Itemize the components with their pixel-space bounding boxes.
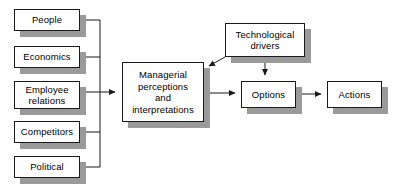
node-competitors[interactable]: Competitors: [14, 121, 80, 143]
node-employee-relations[interactable]: Employee relations: [14, 81, 80, 109]
node-managerial-perceptions[interactable]: Managerial perceptions and interpretatio…: [122, 62, 204, 122]
edge-technological-to-managerial: [209, 57, 225, 66]
node-political[interactable]: Political: [14, 156, 80, 178]
flow-diagram: People Economics Employee relations Comp…: [0, 0, 399, 195]
node-options[interactable]: Options: [241, 81, 296, 108]
node-technological-drivers[interactable]: Technological drivers: [225, 23, 305, 57]
node-actions[interactable]: Actions: [327, 81, 382, 108]
node-economics[interactable]: Economics: [14, 46, 80, 68]
node-people[interactable]: People: [14, 9, 80, 31]
